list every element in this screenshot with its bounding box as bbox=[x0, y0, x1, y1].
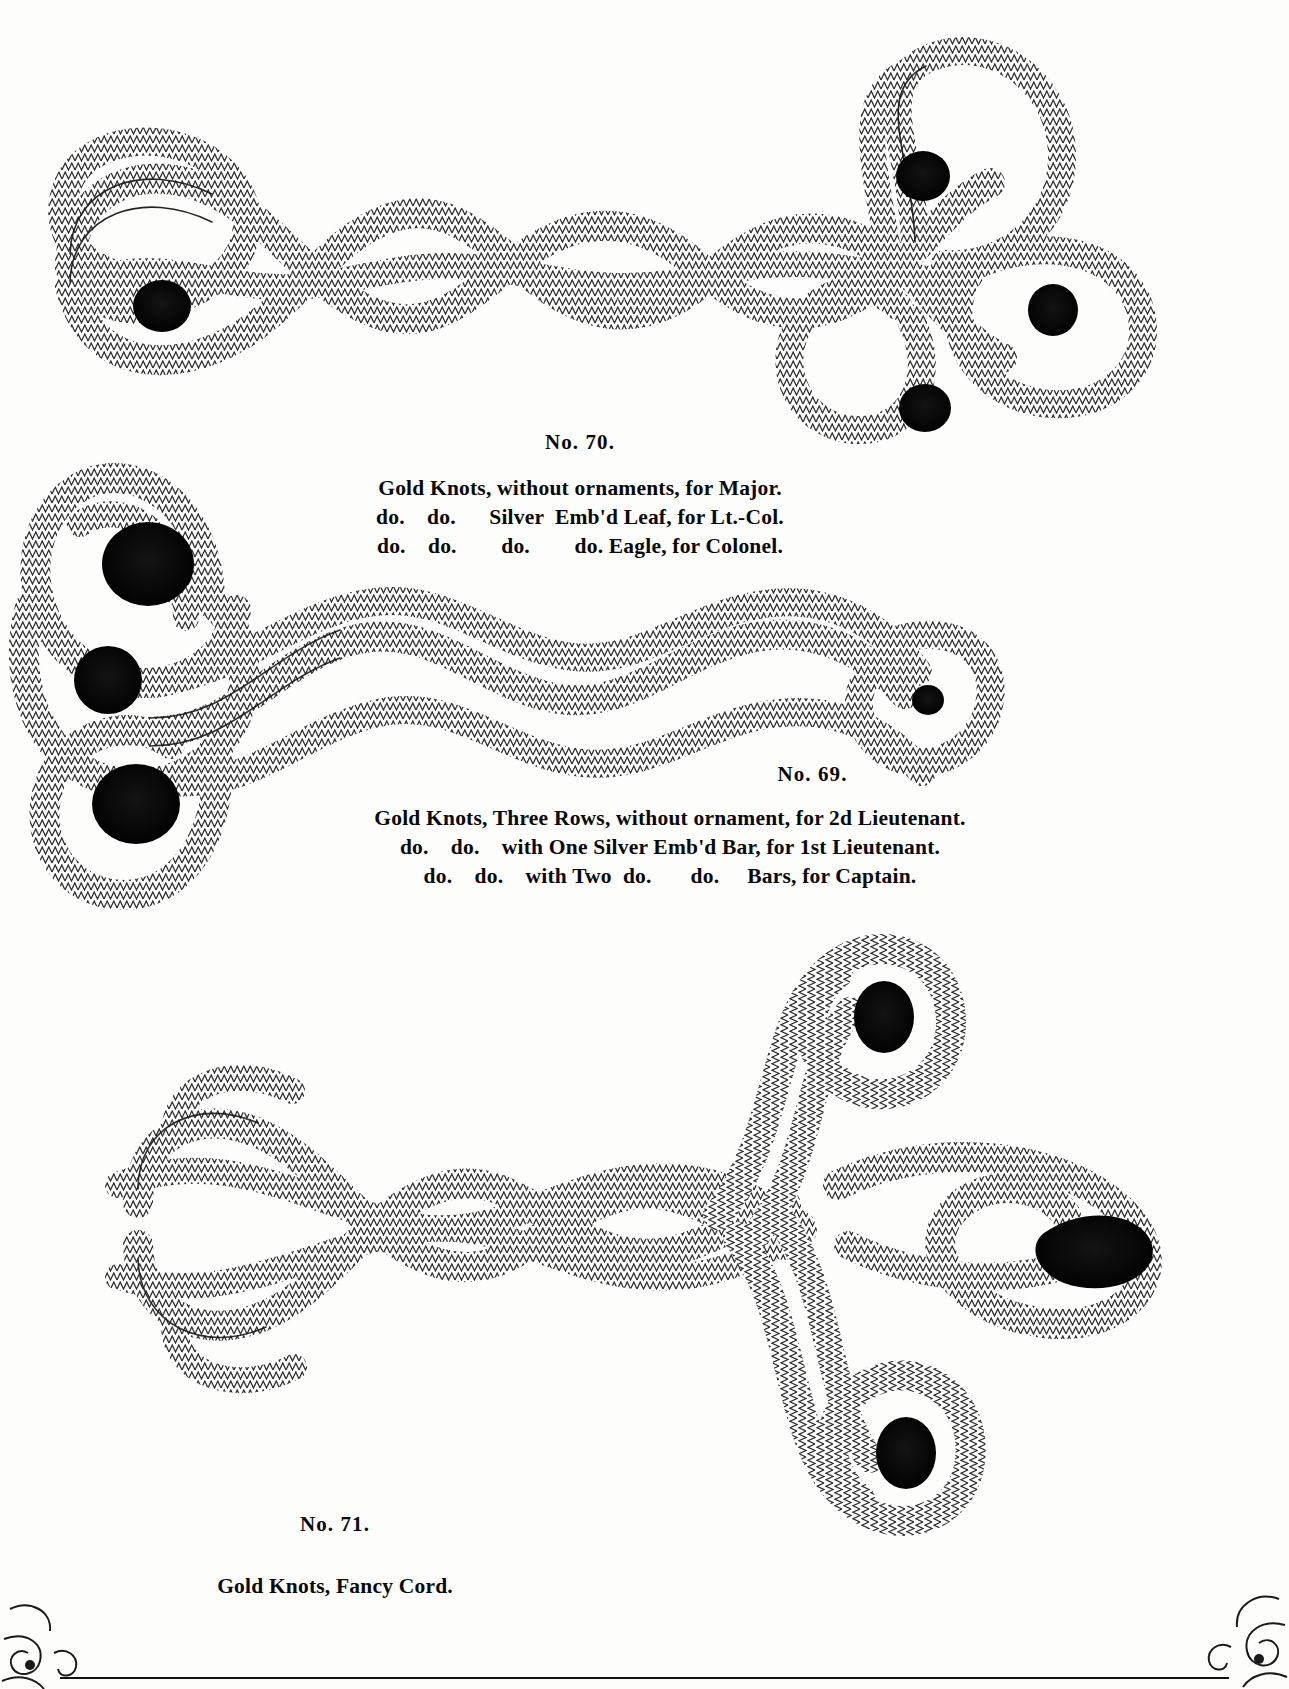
caption-no-71: No. 71. Gold Knots, Fancy Cord. bbox=[120, 1510, 550, 1601]
caption-line: Gold Knots, Fancy Cord. bbox=[120, 1572, 550, 1601]
plate-number-71: No. 71. bbox=[120, 1510, 550, 1538]
corner-ornament-bottom-right bbox=[1169, 1569, 1289, 1689]
caption-line: do. do. with One Silver Emb'd Bar, for 1… bbox=[300, 833, 1040, 862]
bottom-rule bbox=[60, 1677, 1229, 1679]
figure-knot-no-71 bbox=[78, 885, 1188, 1585]
catalog-page: No. 70. Gold Knots, without ornaments, f… bbox=[0, 0, 1289, 1689]
caption-line: Gold Knots, Three Rows, without ornament… bbox=[300, 804, 1040, 833]
caption-no-69: No. 69. Gold Knots, Three Rows, without … bbox=[300, 760, 1040, 891]
corner-ornament-bottom-left bbox=[0, 1569, 120, 1689]
figure-knot-no-70 bbox=[10, 18, 1190, 448]
plate-number-69: No. 69. bbox=[300, 760, 1040, 788]
knot-eye bbox=[854, 981, 1153, 1489]
